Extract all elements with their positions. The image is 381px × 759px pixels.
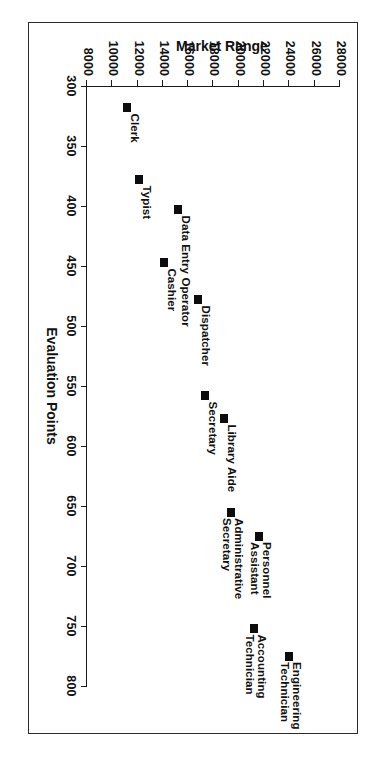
x-axis-tick xyxy=(81,686,87,687)
data-point-label: Library Aide xyxy=(226,424,238,492)
x-axis-tick-label: 600 xyxy=(64,423,78,469)
x-axis-tick-label: 350 xyxy=(64,123,78,169)
y-axis-tick-label: 8000 xyxy=(81,24,95,76)
data-point-label: AccountingTechnician xyxy=(244,634,268,698)
data-point-label: Clerk xyxy=(129,114,141,143)
x-axis-tick-label: 750 xyxy=(64,603,78,649)
y-axis-title: Market Range xyxy=(142,38,302,54)
data-point-label: EngineeringTechnician xyxy=(279,662,303,730)
x-axis-tick-label: 800 xyxy=(64,663,78,709)
data-point-marker[interactable] xyxy=(255,532,263,541)
x-axis-tick-label: 500 xyxy=(64,303,78,349)
data-point-marker[interactable] xyxy=(250,624,258,633)
data-point-marker[interactable] xyxy=(285,652,293,661)
y-axis-tick-label: 26000 xyxy=(309,24,323,76)
data-point-label: AdministrativeSecretary xyxy=(221,518,245,599)
x-axis-tick-label: 400 xyxy=(64,183,78,229)
scanned-page: 300350400450500550600650700750800 800010… xyxy=(0,0,381,759)
data-point-label: Cashier xyxy=(166,268,178,311)
data-point-label: PersonnelAssistant xyxy=(249,542,273,599)
x-axis-tick-label: 300 xyxy=(64,63,78,109)
y-axis-tick-label: 10000 xyxy=(106,24,120,76)
data-point-label: Data Entry Operator xyxy=(180,216,192,327)
data-point-marker[interactable] xyxy=(194,295,202,304)
data-point-label: Typist xyxy=(141,186,153,220)
chart-frame: 300350400450500550600650700750800 800010… xyxy=(28,22,358,734)
data-point-marker[interactable] xyxy=(160,258,168,267)
y-axis-tick-label: 28000 xyxy=(334,24,348,76)
data-point-marker[interactable] xyxy=(123,103,131,112)
plot-area: ClerkTypistData Entry OperatorCashierDis… xyxy=(87,86,340,686)
x-axis-tick-label: 550 xyxy=(64,363,78,409)
data-point-label: Dispatcher xyxy=(200,306,212,366)
data-point-marker[interactable] xyxy=(220,414,228,423)
data-point-marker[interactable] xyxy=(201,391,209,400)
data-point-marker[interactable] xyxy=(174,205,182,214)
x-axis-tick-label: 450 xyxy=(64,243,78,289)
rotated-chart: 300350400450500550600650700750800 800010… xyxy=(38,28,348,728)
x-axis-title: Evaluation Points xyxy=(44,86,60,686)
data-point-marker[interactable] xyxy=(227,508,235,517)
data-point-marker[interactable] xyxy=(135,175,143,184)
data-point-label: Secretary xyxy=(207,402,219,455)
x-axis-tick-label: 700 xyxy=(64,543,78,589)
x-axis-tick-label: 650 xyxy=(64,483,78,529)
